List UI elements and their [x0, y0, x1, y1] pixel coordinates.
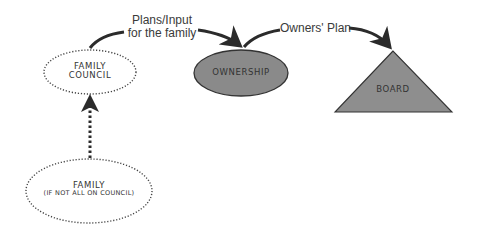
plans-input-line2: for the family [122, 27, 202, 40]
council-to-ownership-arrow-tail [90, 32, 124, 48]
owners-plan-label: Owners' Plan [280, 22, 350, 35]
ownership-to-board-arrow-head [349, 28, 388, 45]
board-label: BOARD [363, 85, 423, 94]
family-council-label: FAMILY COUNCIL [50, 62, 130, 81]
owners-plan-text: Owners' Plan [280, 21, 351, 35]
family-line2: (IF NOT ALL ON COUNCIL) [29, 190, 149, 197]
family-label: FAMILY (IF NOT ALL ON COUNCIL) [29, 181, 149, 197]
family-council-line2: COUNCIL [50, 71, 130, 80]
ownership-label: OWNERSHIP [196, 68, 286, 77]
board-node [335, 51, 452, 112]
diagram-canvas [0, 0, 479, 236]
board-text: BOARD [376, 84, 410, 94]
ownership-text: OWNERSHIP [212, 67, 270, 77]
plans-input-label: Plans/Input for the family [122, 14, 202, 40]
ownership-to-board-arrow-tail [244, 30, 280, 47]
council-to-ownership-arrow-head [198, 30, 238, 44]
